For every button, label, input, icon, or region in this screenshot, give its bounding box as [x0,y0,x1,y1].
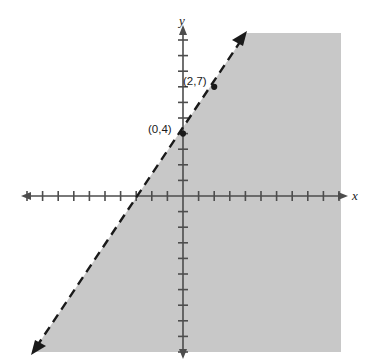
point-marker-2-7 [211,84,217,90]
y-axis-arrow-down [179,349,187,359]
coordinate-plane-svg [0,0,371,363]
x-axis-label: x [352,189,358,202]
point-label-2-7: (2,7) [183,76,207,88]
y-axis-label: y [179,14,185,27]
point-marker-0-4 [180,131,186,137]
x-axis-arrow-left [21,192,31,200]
graph-figure: y x (0,4) (2,7) [0,0,371,363]
point-label-0-4: (0,4) [148,124,172,136]
